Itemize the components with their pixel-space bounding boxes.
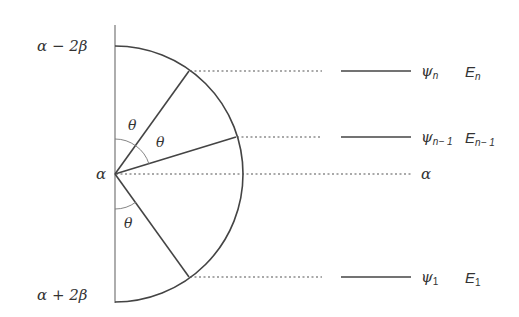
theta-label-bottom: θ [124,215,133,231]
radius-psi-n [115,71,189,174]
alpha-level-label: α [421,165,431,183]
e-n-minus-1-label: En− 1 [465,129,495,148]
radius-psi-n-minus-1 [115,137,236,174]
psi-n-minus-1-label: ψn− 1 [421,128,453,147]
axis-label-top: α − 2β [37,37,88,55]
e-1-label: E1 [465,269,481,288]
e-n-label: En [465,63,481,82]
axis-label-center: α [96,165,106,183]
angle-arc-top [115,139,136,146]
psi-1-label: ψ1 [421,268,439,287]
theta-label-middle: θ [156,134,165,150]
angle-arc-middle [136,146,149,164]
frost-circle-diagram: α − 2β α α + 2β θ θ θ ψn En ψn− 1 En− 1 … [0,0,519,317]
psi-n-label: ψn [421,62,439,81]
angle-arc-bottom [115,202,136,209]
theta-label-top: θ [128,117,137,133]
axis-label-bottom: α + 2β [37,286,88,304]
